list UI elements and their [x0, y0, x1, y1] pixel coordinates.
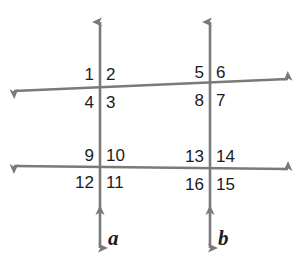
angle-label-3: 3	[106, 94, 115, 111]
angle-label-11: 11	[106, 174, 124, 191]
upper-transversal	[14, 79, 288, 91]
angle-label-6: 6	[216, 64, 225, 81]
angle-label-4: 4	[85, 94, 94, 111]
angle-label-1: 1	[85, 66, 94, 83]
lower-transversal	[14, 166, 288, 169]
angle-label-2: 2	[106, 66, 115, 83]
angle-label-14: 14	[216, 148, 235, 165]
angle-label-9: 9	[85, 147, 94, 164]
angle-label-7: 7	[216, 92, 225, 109]
line-b	[205, 22, 214, 248]
angle-label-13: 13	[185, 148, 204, 165]
upper-transversal-segment	[14, 79, 288, 91]
geometry-canvas	[0, 0, 302, 262]
line-name-label-b: b	[218, 228, 229, 249]
angle-label-15: 15	[216, 176, 235, 193]
geometry-figure: 1 2 4 3 5 6 8 7 9 10 12 11 13 14 16 15 a…	[0, 0, 302, 262]
angle-label-12: 12	[75, 174, 94, 191]
line-a	[95, 22, 104, 248]
angle-label-8: 8	[195, 92, 204, 109]
angle-label-16: 16	[185, 176, 204, 193]
lower-transversal-segment	[14, 166, 288, 169]
angle-label-10: 10	[106, 147, 125, 164]
line-name-label-a: a	[108, 228, 119, 249]
angle-label-5: 5	[195, 64, 204, 81]
